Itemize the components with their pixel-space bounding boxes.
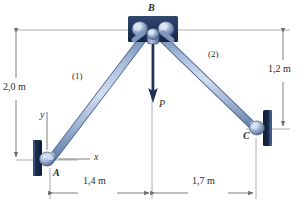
support-C <box>250 110 273 146</box>
dimension-label-2-0-m: 2,0 m <box>3 82 26 92</box>
joint-label-B: B <box>148 3 155 13</box>
truss-diagram-svg <box>0 0 306 209</box>
load-label-P: P <box>159 99 165 109</box>
joint-label-A: A <box>53 168 60 178</box>
axis-label-x: x <box>94 152 98 162</box>
member-1-bar <box>53 36 145 157</box>
figure-canvas: B A C (1) (2) P y x 2,0 m 1,2 m 1,4 m 1,… <box>0 0 306 209</box>
axis-label-y: y <box>40 110 44 120</box>
joint-B-gusset <box>128 16 178 44</box>
member-1-label: (1) <box>72 72 83 81</box>
support-A <box>33 140 55 176</box>
dimension-label-1-7-m: 1,7 m <box>192 176 215 186</box>
dimension-label-1-4-m: 1,4 m <box>83 176 106 186</box>
dimension-label-1-2-m: 1,2 m <box>268 64 291 74</box>
load-P-arrow <box>148 44 158 103</box>
member-2-label: (2) <box>208 50 219 59</box>
member-2-bar <box>160 36 253 126</box>
joint-label-C: C <box>243 131 250 141</box>
